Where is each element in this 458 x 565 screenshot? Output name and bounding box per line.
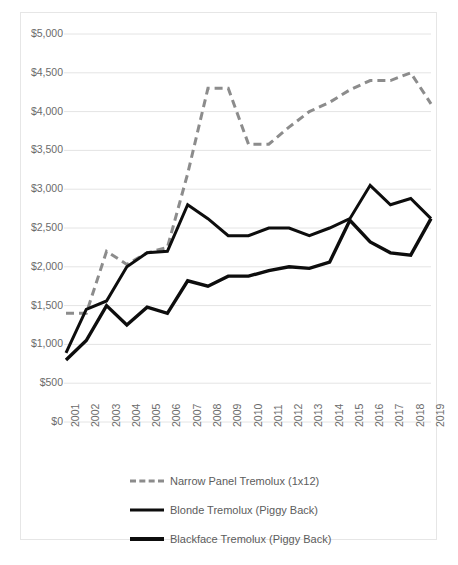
x-axis-tick-label: 2011 bbox=[273, 404, 284, 427]
legend-swatch-dashed-icon bbox=[130, 475, 164, 487]
chart-legend: Narrow Panel Tremolux (1x12)Blonde Tremo… bbox=[130, 468, 430, 555]
x-axis-tick-label: 2014 bbox=[334, 404, 345, 427]
x-axis: 2001200220032004200520062007200820092010… bbox=[0, 0, 458, 500]
x-axis-tick-label: 2006 bbox=[171, 404, 182, 427]
x-axis-tick-label: 2017 bbox=[394, 404, 405, 427]
x-axis-tick-label: 2004 bbox=[131, 404, 142, 427]
legend-item-label: Narrow Panel Tremolux (1x12) bbox=[170, 475, 319, 487]
x-axis-tick-label: 2016 bbox=[374, 404, 385, 427]
x-axis-tick-label: 2005 bbox=[151, 404, 162, 427]
x-axis-tick-label: 2013 bbox=[313, 404, 324, 427]
x-axis-tick-label: 2019 bbox=[435, 404, 446, 427]
x-axis-tick-label: 2009 bbox=[232, 404, 243, 427]
x-axis-tick-label: 2007 bbox=[192, 404, 203, 427]
x-axis-tick-label: 2015 bbox=[354, 404, 365, 427]
legend-swatch-solid-thick-icon bbox=[130, 533, 164, 545]
legend-swatch-solid-thin-icon bbox=[130, 504, 164, 516]
x-axis-tick-label: 2018 bbox=[415, 404, 426, 427]
x-axis-tick-label: 2003 bbox=[111, 404, 122, 427]
legend-item[interactable]: Blackface Tremolux (Piggy Back) bbox=[130, 526, 430, 551]
legend-item-label: Blonde Tremolux (Piggy Back) bbox=[170, 504, 318, 516]
x-axis-tick-label: 2010 bbox=[253, 404, 264, 427]
legend-item[interactable]: Narrow Panel Tremolux (1x12) bbox=[130, 468, 430, 493]
x-axis-tick-label: 2012 bbox=[293, 404, 304, 427]
legend-item[interactable]: Blonde Tremolux (Piggy Back) bbox=[130, 497, 430, 522]
x-axis-tick-label: 2008 bbox=[212, 404, 223, 427]
legend-item-label: Blackface Tremolux (Piggy Back) bbox=[170, 533, 331, 545]
x-axis-tick-label: 2001 bbox=[70, 404, 81, 427]
x-axis-tick-label: 2002 bbox=[90, 404, 101, 427]
